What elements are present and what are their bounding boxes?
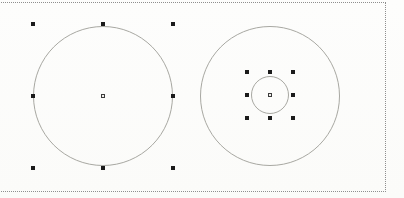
selection-small-circle-inner-handle-ne[interactable] (291, 70, 295, 74)
selection-large-circle-left-handle-e[interactable] (171, 94, 175, 98)
selection-large-circle-left-handle-ne[interactable] (171, 22, 175, 26)
selection-small-circle-inner-handle-sw[interactable] (245, 116, 249, 120)
selection-small-circle-inner-handle-s[interactable] (268, 116, 272, 120)
selection-small-circle-inner-handle-nw[interactable] (245, 70, 249, 74)
selection-large-circle-left-handle-w[interactable] (31, 94, 35, 98)
selection-small-circle-inner-handle-n[interactable] (268, 70, 272, 74)
selection-small-circle-inner-center-marker (268, 93, 272, 97)
drawing-canvas[interactable] (0, 0, 404, 198)
selection-small-circle-inner-handle-se[interactable] (291, 116, 295, 120)
selection-large-circle-left-handle-sw[interactable] (31, 166, 35, 170)
selection-large-circle-left-center-marker (101, 94, 105, 98)
selection-large-circle-left-handle-s[interactable] (101, 166, 105, 170)
selection-large-circle-left-handle-nw[interactable] (31, 22, 35, 26)
selection-large-circle-left-handle-se[interactable] (171, 166, 175, 170)
selection-small-circle-inner-handle-e[interactable] (291, 93, 295, 97)
selection-large-circle-left-handle-n[interactable] (101, 22, 105, 26)
selection-small-circle-inner-handle-w[interactable] (245, 93, 249, 97)
